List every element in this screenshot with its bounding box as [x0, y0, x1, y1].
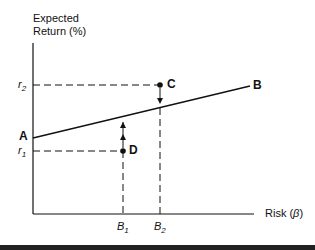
- c-arrow-head: [157, 98, 163, 104]
- point-d: [120, 148, 126, 154]
- bottom-rule: [0, 245, 315, 250]
- y-axis-title-line2: Return (%): [33, 25, 86, 38]
- point-c: [157, 82, 163, 88]
- d-arrow-head-1: [120, 134, 126, 140]
- tick-b1: B1: [117, 220, 129, 237]
- tick-b2: B2: [154, 220, 166, 237]
- label-c: C: [167, 78, 176, 91]
- d-arrow-head-2: [120, 122, 126, 128]
- x-axis-title: Risk (β): [265, 207, 303, 220]
- security-market-line: [33, 86, 250, 138]
- tick-r1: r1: [18, 144, 26, 161]
- label-a: A: [19, 130, 28, 143]
- tick-r2: r2: [18, 78, 26, 95]
- label-b: B: [253, 79, 262, 92]
- label-d: D: [129, 144, 138, 157]
- y-axis-title-line1: Expected: [33, 12, 79, 25]
